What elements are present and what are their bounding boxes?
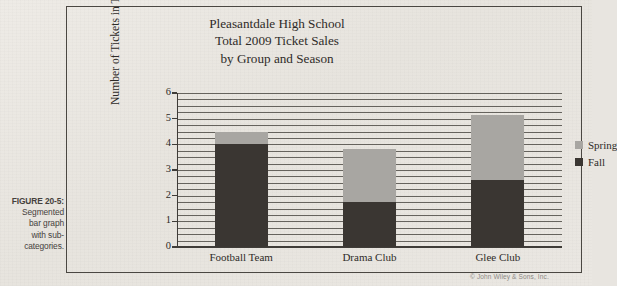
- y-tick: [172, 221, 177, 222]
- y-tick-label: 2: [157, 189, 171, 200]
- caption-line-2: bar graph: [2, 218, 64, 229]
- y-tick: [172, 246, 177, 247]
- figure-frame: Pleasantdale High School Total 2009 Tick…: [66, 6, 582, 273]
- caption-line-3: with sub-: [2, 230, 64, 241]
- x-label-glee-club: Glee Club: [434, 251, 562, 263]
- bar-segment-spring[interactable]: [343, 149, 396, 202]
- y-axis-title: Number of Tickets in Thousands: [109, 0, 122, 105]
- figure-number: FIGURE 20-5:: [2, 196, 64, 207]
- y-tick: [172, 144, 177, 145]
- plot-area: Number of Tickets in Thousands 0123456 F…: [177, 93, 562, 247]
- y-tick-label: 5: [157, 112, 171, 123]
- bar-segment-spring[interactable]: [471, 115, 524, 180]
- bar-segment-fall[interactable]: [471, 180, 524, 247]
- legend-swatch-fall-icon: [575, 158, 583, 166]
- legend-item-spring[interactable]: Spring: [575, 139, 617, 151]
- bar-segment-fall[interactable]: [343, 202, 396, 247]
- legend-item-fall[interactable]: Fall: [575, 156, 617, 168]
- legend-label: Spring: [588, 139, 617, 151]
- y-tick: [172, 118, 177, 119]
- y-tick: [172, 169, 177, 170]
- bar-drama-club[interactable]: [343, 93, 396, 247]
- y-tick-label: 4: [157, 137, 171, 148]
- figure-caption: FIGURE 20-5: Segmented bar graph with su…: [2, 196, 64, 252]
- y-tick: [172, 92, 177, 93]
- chart-title-line-3: by Group and Season: [67, 50, 487, 67]
- y-tick-label: 1: [157, 214, 171, 225]
- y-tick-label: 6: [157, 86, 171, 97]
- caption-line-1: Segmented: [2, 207, 64, 218]
- chart-title: Pleasantdale High School Total 2009 Tick…: [67, 15, 487, 67]
- legend-swatch-spring-icon: [575, 141, 583, 149]
- chart-title-line-1: Pleasantdale High School: [67, 15, 487, 32]
- copyright-notice: © John Wiley & Sons, Inc.: [470, 273, 549, 280]
- bar-glee-club[interactable]: [471, 93, 524, 247]
- x-label-football-team: Football Team: [177, 251, 305, 263]
- bar-segment-fall[interactable]: [215, 144, 268, 247]
- chart-legend: SpringFall: [575, 139, 617, 173]
- y-tick-label: 0: [157, 240, 171, 251]
- chart-title-line-2: Total 2009 Ticket Sales: [67, 32, 487, 49]
- y-tick: [172, 195, 177, 196]
- y-tick-label: 3: [157, 163, 171, 174]
- bar-segment-spring[interactable]: [215, 132, 268, 145]
- caption-line-4: categories.: [2, 241, 64, 252]
- bar-football-team[interactable]: [215, 93, 268, 247]
- x-label-drama-club: Drama Club: [305, 251, 433, 263]
- legend-label: Fall: [588, 156, 605, 168]
